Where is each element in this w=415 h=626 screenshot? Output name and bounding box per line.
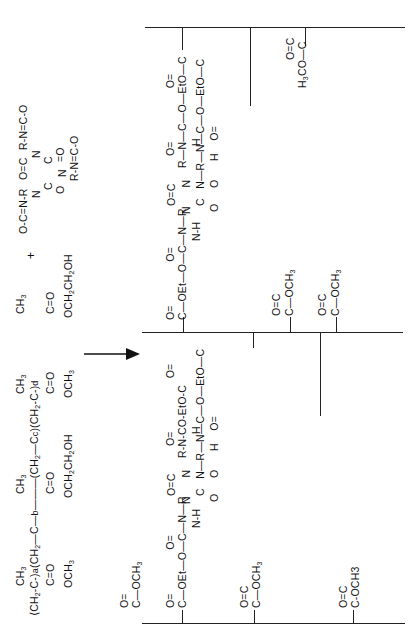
mid-ester-up-1-carbonyl: O=C: [270, 294, 282, 316]
methyl-4: CH3: [14, 294, 30, 314]
ring-n-2: N: [30, 150, 42, 158]
methyl-2: CH3: [14, 474, 30, 494]
bottom-ester-1-carbonyl: O=C: [238, 586, 250, 608]
copolymer-backbone: ⟨CH2-C-)a(CH2—C—b———(CH2—Cc)(CH2-C-)d: [28, 380, 44, 616]
ring-carbonyl-lower-right: =O: [54, 147, 66, 162]
subscript-b: b: [30, 510, 40, 515]
lower-linker-right-nh: H: [190, 426, 202, 434]
pendant-bond: [182, 610, 183, 624]
upper-linker-right-carbonyls: O= O=: [164, 74, 176, 156]
methyl-3: CH3: [14, 374, 30, 394]
ring-carbonyl-lower-left: O: [54, 186, 66, 194]
ester-4: OCH2CH2OH: [62, 254, 78, 318]
carbonyl-2: C=O: [44, 472, 56, 494]
upper-methyl-ester-carbonyl: O=C: [284, 38, 296, 60]
subscript-c: c: [30, 432, 40, 437]
ring-n-1: N: [30, 190, 42, 198]
methyl-1: CH3: [14, 566, 30, 586]
reaction-arrow: [82, 344, 142, 364]
upper-linker-right: R—N—C—O—EtO—C: [176, 56, 188, 168]
bracket-left: ⟨: [28, 612, 40, 616]
mid-ester-up-2: C—OCH3: [329, 269, 345, 316]
pendant-bond: [290, 317, 291, 333]
upper-linker-nh-2: H: [190, 138, 202, 146]
ring-n-3: N: [56, 169, 68, 177]
isocyanate-arm-left: O-C=N-R: [17, 189, 29, 234]
upper-ring-c: C N—R—N—C—O—EtO—C: [194, 59, 206, 206]
pendant-bond: [250, 28, 251, 106]
pendant-bond: [353, 610, 354, 624]
ester-2: OCH2CH2OH: [62, 434, 78, 498]
bottom-ester-2-carbonyl: O=C: [337, 586, 349, 608]
isocyanate-arm-bottom: R-N=C-O: [68, 136, 80, 181]
lower-linker-right-carbonyls: O= O=: [164, 364, 176, 446]
plus-sign: +: [24, 252, 38, 259]
lower-linker-nh: N-H: [190, 509, 202, 528]
ring-c-1: C: [42, 182, 54, 190]
carbonyl-1: C=O: [44, 564, 56, 586]
pendant-bond: [320, 333, 321, 416]
pendant-bond: [336, 317, 337, 333]
lower-ring-top: O=C: [165, 474, 177, 496]
ester-1: OCH3: [62, 560, 78, 588]
pendant-bond: [253, 333, 254, 348]
lower-linker-carbonyls: O= O=: [164, 535, 176, 608]
mid-ester-up-2-carbonyl: O=C: [316, 294, 328, 316]
upper-methyl-ester: H3CO—C: [296, 41, 312, 88]
ring-c-2: C: [42, 156, 54, 164]
carbonyl-4: C=O: [44, 292, 56, 314]
reaction-scheme: O-C=N-R O=C N N C C O =O N R-N=C-O R-N=C…: [0, 0, 415, 626]
lower-linker-chain: C—OEt—O—C—N—R: [176, 496, 188, 608]
carbonyl-3: C=O: [44, 372, 56, 394]
lower-ring-n: N N: [180, 470, 192, 504]
bottom-ester-0: C—OCH3: [130, 561, 146, 608]
lower-ring-bottom-carbonyls: O O H O=: [208, 416, 220, 502]
pendant-bond: [254, 610, 255, 624]
mid-ester-up-1: C—OCH3: [283, 269, 299, 316]
upper-ring-n: N N: [180, 180, 192, 214]
isocyanate-arm-right: R-N=C-O: [17, 105, 29, 150]
ring-carbonyl-top: O=C: [17, 158, 29, 180]
polymer-backbone-1: [145, 27, 405, 28]
pendant-bond: [182, 28, 183, 50]
bottom-ester-2: C-OCH3: [349, 567, 361, 608]
upper-linker-chain: C—OEt—O—C—N—R: [176, 208, 188, 320]
subscript-d: d: [30, 380, 40, 385]
lower-linker-right: R-N-CO-EtO-C: [176, 385, 188, 458]
lower-ring-c: C N—R—N—C—O—EtO—C: [194, 349, 206, 496]
upper-ring-top: O=C: [165, 184, 177, 206]
ester-3: OCH3: [62, 370, 78, 398]
upper-linker-carbonyls: O= O=: [164, 247, 176, 320]
upper-ring-bottom-carbonyls: O O H O=: [208, 126, 220, 212]
bottom-ester-1: C—OCH3: [250, 561, 266, 608]
upper-linker-nh-1: N-H: [190, 222, 202, 241]
bottom-ester-0-carbonyl: O=: [118, 593, 130, 608]
polymer-backbone-2: [142, 332, 403, 333]
subscript-a: a: [30, 568, 40, 573]
